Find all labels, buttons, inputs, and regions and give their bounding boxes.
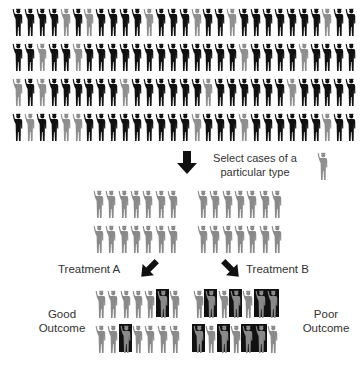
gray-person-icon	[222, 190, 233, 219]
dark-person-icon	[179, 113, 190, 142]
good-outcome-line2: Outcome	[37, 321, 87, 335]
gray-person-icon	[218, 325, 229, 354]
dark-person-icon	[250, 43, 261, 72]
dark-person-icon	[333, 113, 344, 142]
dark-person-icon	[119, 113, 130, 142]
gray-person-icon	[24, 113, 35, 142]
dark-person-icon	[131, 8, 142, 37]
dark-person-icon	[155, 78, 166, 107]
gray-person-icon	[255, 325, 266, 354]
gray-person-icon	[242, 325, 253, 354]
gray-person-icon	[321, 8, 332, 37]
selection-label-line2: particular type	[207, 165, 303, 179]
gray-person-icon	[167, 225, 178, 254]
dark-person-icon	[95, 113, 106, 142]
dark-person-icon	[226, 78, 237, 107]
dark-person-icon	[286, 43, 297, 72]
gray-person-icon	[36, 78, 47, 107]
arrow-down-icon	[177, 151, 197, 174]
good-outcome-line1: Good	[37, 307, 87, 321]
dark-person-icon	[298, 113, 309, 142]
gray-person-icon	[234, 190, 245, 219]
gray-person-icon	[169, 290, 180, 319]
population-row	[0, 43, 361, 73]
dark-person-icon	[214, 8, 225, 37]
dark-person-icon	[179, 8, 190, 37]
dark-person-icon	[286, 113, 297, 142]
gray-person-icon	[132, 325, 143, 354]
dark-person-icon	[345, 78, 356, 107]
gray-person-icon	[193, 325, 204, 354]
dark-person-icon	[12, 43, 23, 72]
gray-person-icon	[298, 43, 309, 72]
gray-person-icon	[95, 325, 106, 354]
gray-person-icon	[193, 290, 204, 319]
good-outcome-label: Good Outcome	[37, 307, 87, 335]
dark-person-icon	[107, 8, 118, 37]
dark-person-icon	[95, 43, 106, 72]
dark-person-icon	[179, 78, 190, 107]
dark-person-icon	[36, 8, 47, 37]
dark-person-icon	[48, 43, 59, 72]
gray-person-icon	[271, 190, 282, 219]
dark-person-icon	[298, 78, 309, 107]
dark-person-icon	[95, 78, 106, 107]
gray-person-icon	[60, 8, 71, 37]
gray-person-icon	[267, 290, 278, 319]
dark-person-icon	[155, 113, 166, 142]
gray-person-icon	[105, 225, 116, 254]
gray-person-icon	[202, 78, 213, 107]
gray-person-icon	[226, 8, 237, 37]
dark-person-icon	[167, 8, 178, 37]
gray-person-icon	[246, 225, 257, 254]
gray-person-icon	[209, 190, 220, 219]
dark-person-icon	[12, 8, 23, 37]
gray-person-icon	[191, 113, 202, 142]
gray-person-icon	[132, 290, 143, 319]
arrow-down-right-icon	[220, 258, 242, 280]
dark-person-icon	[250, 78, 261, 107]
gray-person-icon	[83, 8, 94, 37]
poor-outcome-line1: Poor	[298, 307, 354, 321]
gray-person-icon	[197, 225, 208, 254]
gray-person-icon	[230, 325, 241, 354]
dark-person-icon	[48, 113, 59, 142]
dark-person-icon	[12, 113, 23, 142]
dark-person-icon	[60, 43, 71, 72]
dark-person-icon	[48, 78, 59, 107]
gray-person-icon	[218, 290, 229, 319]
gray-person-icon	[118, 225, 129, 254]
dark-person-icon	[167, 113, 178, 142]
dark-person-icon	[274, 43, 285, 72]
dark-person-icon	[214, 78, 225, 107]
gray-person-icon	[321, 113, 332, 142]
dark-person-icon	[167, 43, 178, 72]
dark-person-icon	[274, 8, 285, 37]
gray-person-icon	[95, 290, 106, 319]
dark-person-icon	[274, 113, 285, 142]
selection-label-line1: Select cases of a	[207, 151, 303, 165]
dark-person-icon	[226, 113, 237, 142]
dark-person-icon	[143, 113, 154, 142]
gray-person-icon	[259, 225, 270, 254]
gray-person-icon	[157, 290, 168, 319]
gray-person-icon	[93, 225, 104, 254]
dark-person-icon	[238, 78, 249, 107]
gray-person-icon	[267, 325, 278, 354]
gray-person-icon	[238, 113, 249, 142]
dark-person-icon	[321, 43, 332, 72]
dark-person-icon	[286, 8, 297, 37]
gray-person-icon	[242, 290, 253, 319]
gray-person-icon	[105, 190, 116, 219]
gray-person-icon	[238, 43, 249, 72]
dark-person-icon	[107, 43, 118, 72]
dark-person-icon	[72, 78, 83, 107]
dark-person-icon	[60, 78, 71, 107]
dark-person-icon	[155, 43, 166, 72]
dark-person-icon	[262, 43, 273, 72]
dark-person-icon	[262, 113, 273, 142]
dark-person-icon	[24, 78, 35, 107]
dark-person-icon	[226, 43, 237, 72]
dark-person-icon	[310, 43, 321, 72]
gray-person-icon	[317, 152, 328, 181]
